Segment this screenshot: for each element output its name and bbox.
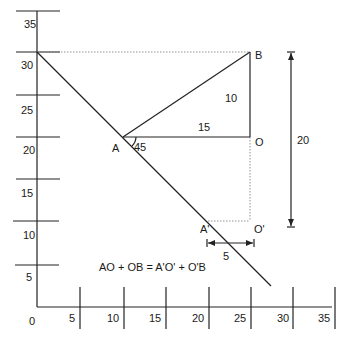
x-axis-labels: 0 5 10 15 20 25 30 35 xyxy=(29,312,330,327)
label-angle-a: 45 xyxy=(134,141,146,153)
solid-lines xyxy=(37,52,271,286)
y-tick-label: 10 xyxy=(23,229,35,241)
y-axis-labels: 35 30 25 20 15 10 5 xyxy=(21,18,36,283)
label-ao-length: 15 xyxy=(198,121,210,133)
label-ob-length: 10 xyxy=(225,92,237,104)
x-tick-label: 20 xyxy=(192,312,204,324)
x-tick-label: 30 xyxy=(277,312,289,324)
y-tick-label: 5 xyxy=(26,271,32,283)
dimension-arrow-20 xyxy=(287,52,295,227)
label-b: B xyxy=(255,49,262,61)
diagonal-line xyxy=(37,52,271,286)
x-tick-label: 10 xyxy=(107,312,119,324)
x-axis xyxy=(37,287,335,329)
geometry-diagram: 35 30 25 20 15 10 5 0 5 10 15 20 25 30 3… xyxy=(0,0,349,343)
equation-label: AO + OB = A'O' + O'B xyxy=(99,261,206,273)
label-o-prime: O' xyxy=(254,223,265,235)
y-tick-label: 20 xyxy=(23,144,35,156)
label-a-prime: A' xyxy=(200,223,209,235)
y-tick-label: 30 xyxy=(21,59,33,71)
label-horizontal-shift: 5 xyxy=(223,250,229,262)
y-tick-label: 15 xyxy=(21,187,33,199)
label-a: A xyxy=(112,142,120,154)
x-tick-label: 15 xyxy=(149,312,161,324)
label-o: O xyxy=(255,136,264,148)
x-tick-label: 5 xyxy=(69,312,75,324)
x-tick-label: 25 xyxy=(234,312,246,324)
y-tick-label: 35 xyxy=(24,18,36,30)
y-axis xyxy=(13,11,60,307)
x-tick-label: 35 xyxy=(318,312,330,324)
label-vertical-span: 20 xyxy=(297,134,309,146)
y-tick-label: 25 xyxy=(21,104,33,116)
x-tick-label: 0 xyxy=(29,315,35,327)
